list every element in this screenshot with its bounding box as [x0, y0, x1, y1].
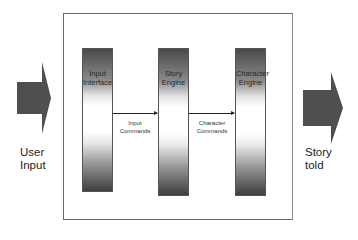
input-interface-block: Input Interface	[82, 48, 113, 192]
character-commands-connector	[189, 113, 234, 114]
character-commands-label: Character Commands	[189, 119, 235, 135]
input-commands-connector	[113, 113, 157, 114]
story-told-label: Story told	[305, 146, 332, 172]
character-engine-block: Character Engine	[235, 48, 266, 196]
user-input-label: User Input	[20, 146, 46, 172]
user-input-arrow-icon	[17, 62, 51, 134]
input-commands-label: Input Commands	[113, 119, 157, 135]
story-engine-block: Story Engine	[158, 48, 189, 196]
story-told-arrow-icon	[303, 72, 343, 144]
